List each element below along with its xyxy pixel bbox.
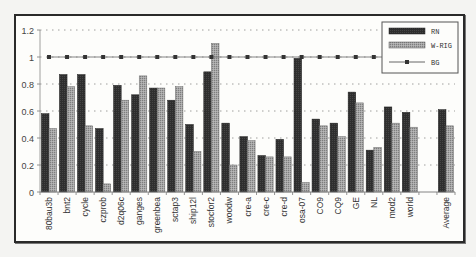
bar-rn bbox=[330, 123, 338, 192]
bg-marker-icon bbox=[173, 55, 177, 59]
bar-rn bbox=[348, 92, 356, 192]
y-tick-label: 0.2 bbox=[21, 161, 34, 171]
bar-rn bbox=[438, 110, 446, 192]
bar-wrig bbox=[139, 76, 147, 192]
bar-chart: 00.20.40.60.811.2 80bau3bbnt2cycleczprob… bbox=[0, 0, 476, 257]
bg-marker-icon bbox=[372, 55, 376, 59]
bar-rn bbox=[168, 100, 176, 192]
legend-marker-bg-icon bbox=[405, 60, 409, 64]
bar-wrig bbox=[374, 147, 382, 192]
x-tick-label: woodw bbox=[224, 196, 234, 224]
bg-marker-icon bbox=[137, 55, 141, 59]
bar-wrig bbox=[67, 87, 75, 192]
bar-wrig bbox=[193, 152, 201, 193]
bg-marker-icon bbox=[336, 55, 340, 59]
bg-marker-icon bbox=[47, 55, 51, 59]
bar-rn bbox=[366, 150, 374, 192]
x-tick-label: sctap3 bbox=[170, 197, 180, 222]
x-tick-label: 80bau3b bbox=[44, 197, 54, 230]
x-tick-label: NL bbox=[369, 197, 379, 208]
bg-marker-icon bbox=[246, 55, 250, 59]
bar-wrig bbox=[175, 87, 183, 192]
bg-marker-icon bbox=[83, 55, 87, 59]
bar-wrig bbox=[446, 126, 454, 192]
bg-marker-icon bbox=[209, 55, 213, 59]
bg-series-line bbox=[47, 55, 412, 59]
x-tick-label: cre-d bbox=[279, 197, 289, 217]
bar-wrig bbox=[266, 157, 274, 192]
bg-marker-icon bbox=[300, 55, 304, 59]
x-tick-label: Average bbox=[441, 197, 451, 229]
bar-rn bbox=[258, 156, 266, 192]
bar-rn bbox=[59, 75, 67, 192]
legend-label-rn: RN bbox=[431, 28, 439, 36]
bar-rn bbox=[276, 139, 284, 192]
bar-wrig bbox=[103, 184, 111, 192]
bg-marker-icon bbox=[101, 55, 105, 59]
bar-wrig bbox=[284, 157, 292, 192]
bg-marker-icon bbox=[155, 55, 159, 59]
bg-marker-icon bbox=[264, 55, 268, 59]
bar-rn bbox=[312, 119, 320, 192]
y-tick-label: 1 bbox=[29, 53, 34, 63]
legend-label-bg: BG bbox=[431, 59, 439, 67]
y-tick-label: 1.2 bbox=[21, 26, 34, 36]
x-tick-label: CQ9 bbox=[333, 197, 343, 215]
x-tick-label: cre-a bbox=[243, 197, 253, 217]
x-tick-label: ship12l bbox=[188, 197, 198, 224]
x-tick-label: CO9 bbox=[315, 197, 325, 215]
bar-rn bbox=[294, 58, 302, 192]
legend: RN W-RIG BG bbox=[382, 22, 458, 73]
bar-wrig bbox=[247, 141, 255, 192]
x-tick-label: ganges bbox=[134, 197, 144, 225]
bar-wrig bbox=[356, 103, 364, 192]
bar-wrig bbox=[121, 100, 129, 192]
bar-wrig bbox=[302, 183, 310, 192]
bar-rn bbox=[402, 112, 410, 192]
bg-marker-icon bbox=[65, 55, 69, 59]
y-tick-label: 0.8 bbox=[21, 80, 34, 90]
bar-wrig bbox=[410, 127, 418, 192]
bar-wrig bbox=[49, 129, 57, 192]
x-tick-label: czprob bbox=[98, 197, 108, 223]
bar-wrig bbox=[85, 126, 93, 192]
bg-marker-icon bbox=[191, 55, 195, 59]
x-tick-label: bnt2 bbox=[62, 197, 72, 214]
bg-marker-icon bbox=[318, 55, 322, 59]
bar-rn bbox=[114, 85, 122, 192]
x-tick-label: world bbox=[405, 197, 415, 219]
bar-rn bbox=[132, 95, 140, 192]
bar-rn bbox=[204, 72, 212, 192]
bar-rn bbox=[240, 137, 248, 192]
x-tick-label: d2q06c bbox=[116, 196, 126, 225]
x-tick-label: cycle bbox=[80, 197, 90, 217]
legend-swatch-wrig bbox=[389, 42, 425, 48]
bg-marker-icon bbox=[227, 55, 231, 59]
bar-rn bbox=[186, 125, 194, 193]
x-axis: 80bau3bbnt2cycleczprobd2q06cgangesgreenb… bbox=[40, 192, 455, 233]
y-tick-label: 0 bbox=[29, 188, 34, 198]
x-tick-label: GE bbox=[351, 197, 361, 210]
bar-wrig bbox=[338, 137, 346, 192]
bar-wrig bbox=[392, 123, 400, 192]
bar-rn bbox=[150, 88, 158, 192]
y-tick-label: 0.6 bbox=[21, 107, 34, 117]
bar-rn bbox=[77, 75, 85, 192]
x-tick-label: cre-c bbox=[261, 196, 271, 216]
bar-rn bbox=[41, 114, 49, 192]
x-tick-label: greenbea bbox=[152, 197, 162, 233]
bar-wrig bbox=[157, 88, 165, 192]
bg-marker-icon bbox=[354, 55, 358, 59]
bg-marker-icon bbox=[282, 55, 286, 59]
bar-wrig bbox=[229, 165, 237, 192]
x-tick-label: osa-07 bbox=[297, 197, 307, 223]
legend-label-wrig: W-RIG bbox=[431, 42, 452, 50]
bar-wrig bbox=[211, 44, 219, 193]
y-axis: 00.20.40.60.811.2 bbox=[21, 26, 40, 198]
x-tick-label: mod2 bbox=[387, 197, 397, 219]
x-tick-label: stocfor2 bbox=[206, 197, 216, 228]
bar-rn bbox=[96, 129, 104, 192]
legend-swatch-rn bbox=[389, 28, 425, 34]
bar-rn bbox=[384, 107, 392, 192]
bg-marker-icon bbox=[119, 55, 123, 59]
